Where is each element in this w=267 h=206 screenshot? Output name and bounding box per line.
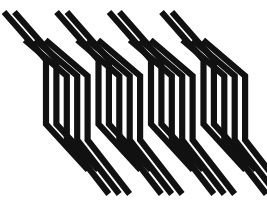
artwork-canvas [0,0,267,206]
stripe-pattern-graphic [0,0,267,206]
